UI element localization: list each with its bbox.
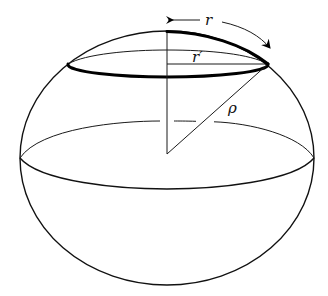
geodesic-radius-arrow [168,20,270,48]
sphere-diagram: r r′ ρ [0,0,328,296]
small-circle-front [68,64,268,77]
label-rho: ρ [227,99,237,117]
arrow-tail-icon [166,16,174,24]
geodesic-arc [167,32,268,65]
small-circle-back [68,50,268,64]
label-r: r [205,11,213,29]
equator-front [20,158,314,189]
label-r-prime: r′ [192,48,203,66]
